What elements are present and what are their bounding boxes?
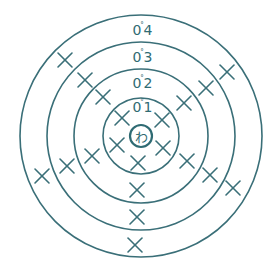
- shell-labels: 0˚10˚20˚30˚4: [133, 21, 153, 115]
- shell-diagram: 0˚10˚20˚30˚4 わ: [0, 0, 277, 278]
- svg-text:4: 4: [144, 22, 153, 38]
- svg-text:1: 1: [144, 99, 153, 115]
- electron-cross-icon: [180, 154, 194, 168]
- nucleus: わ: [130, 125, 152, 147]
- shell-label-4: 0˚4: [133, 21, 153, 38]
- electron-cross-icon: [155, 113, 169, 127]
- electron-cross-icon: [156, 141, 170, 155]
- shell-label-2: 0˚2: [133, 74, 153, 91]
- svg-text:3: 3: [144, 49, 153, 65]
- electron-cross-icon: [35, 169, 49, 183]
- electron-cross-icon: [226, 181, 240, 195]
- electron-cross-icon: [58, 53, 72, 67]
- electron-cross-icon: [110, 138, 124, 152]
- electron-cross-icon: [78, 73, 92, 87]
- electron-cross-icon: [203, 168, 217, 182]
- shell-label-3: 0˚3: [133, 48, 153, 65]
- electron-cross-icon: [85, 149, 99, 163]
- nucleus-label: わ: [135, 130, 148, 145]
- electron-cross-icon: [177, 96, 191, 110]
- electron-cross-icon: [199, 81, 213, 95]
- electron-cross-icon: [128, 238, 142, 252]
- electron-cross-icon: [96, 90, 110, 104]
- electron-cross-icon: [130, 183, 144, 197]
- electron-cross-icon: [130, 210, 144, 224]
- electron-cross-icon: [220, 65, 234, 79]
- electron-cross-icon: [115, 111, 129, 125]
- electron-cross-icon: [60, 159, 74, 173]
- shell-label-1: 0˚1: [133, 98, 153, 115]
- svg-text:2: 2: [144, 75, 153, 91]
- electron-cross-icon: [131, 156, 145, 170]
